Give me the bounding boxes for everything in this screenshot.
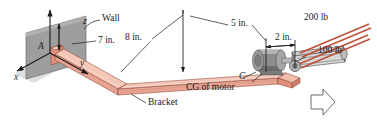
axis-label-y: y [80, 59, 84, 69]
motor-body [253, 50, 294, 75]
force-label-100lb: 100 lb [318, 46, 342, 56]
axis-label-z: z [83, 17, 87, 27]
dimension-2in: 2 in. [275, 33, 292, 43]
bracket-label: Bracket [148, 98, 178, 108]
bracket-leader [131, 94, 146, 103]
force-label-200lb: 200 lb [304, 13, 328, 23]
dimension-7in: 7 in. [98, 36, 115, 46]
dim-5in-line [190, 16, 266, 41]
point-label-c: C [239, 72, 245, 82]
view-direction-arrow [311, 89, 335, 115]
wall-label: Wall [102, 14, 120, 24]
dimension-5in: 5 in. [231, 19, 248, 29]
cg-of-motor-label: CG of motor [186, 83, 235, 93]
dimension-8in: 8 in. [125, 33, 142, 43]
axis-label-x: x [14, 73, 18, 83]
figure-canvas: z y x A C Wall Bracket CG of motor 7 in.… [0, 0, 377, 126]
point-label-a: A [38, 42, 44, 52]
